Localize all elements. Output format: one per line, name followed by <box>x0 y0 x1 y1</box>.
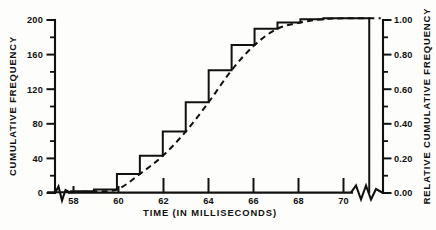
chart-svg: 200 160 120 80 40 0 CUMULATIVE FREQUENCY… <box>0 0 436 230</box>
ogive-curve <box>71 18 381 192</box>
right-axis-group: 1.00 0.80 0.60 0.40 0.20 0.00 RELATIVE C… <box>383 8 432 205</box>
x-tick-label-66: 66 <box>248 196 259 206</box>
left-tick-label-160: 160 <box>27 50 43 60</box>
left-tick-label-120: 120 <box>27 85 43 95</box>
step-histogram <box>48 18 369 193</box>
right-tick-label-060: 0.60 <box>394 85 413 95</box>
x-tick-label-60: 60 <box>113 196 124 206</box>
smoothed-ogive-path <box>71 18 381 192</box>
x-tick-label-58: 58 <box>68 196 79 206</box>
right-tick-label-000: 0.00 <box>394 188 413 198</box>
x-axis-break-right-icon <box>351 186 383 200</box>
x-axis-title: TIME (IN MILLISECONDS) <box>143 207 277 218</box>
right-tick-label-020: 0.20 <box>394 154 413 164</box>
x-tick-label-70: 70 <box>338 196 349 206</box>
cumulative-step-path <box>48 18 369 193</box>
x-axis-group: 58 60 62 64 66 68 70 TIME (IN MILLISECON… <box>55 178 383 218</box>
x-tick-label-62: 62 <box>158 196 169 206</box>
right-tick-label-080: 0.80 <box>394 50 413 60</box>
right-tick-label-040: 0.40 <box>394 119 413 129</box>
left-axis-group: 200 160 120 80 40 0 CUMULATIVE FREQUENCY <box>7 15 55 198</box>
left-tick-label-0: 0 <box>38 188 43 198</box>
left-tick-label-80: 80 <box>32 119 43 129</box>
cumulative-frequency-figure: 200 160 120 80 40 0 CUMULATIVE FREQUENCY… <box>0 0 436 230</box>
right-tick-label-100: 1.00 <box>394 15 413 25</box>
x-tick-label-68: 68 <box>293 196 304 206</box>
right-axis-title: RELATIVE CUMULATIVE FREQUENCY <box>421 8 432 205</box>
left-tick-label-40: 40 <box>32 154 43 164</box>
left-axis-title: CUMULATIVE FREQUENCY <box>7 36 18 176</box>
x-tick-label-64: 64 <box>203 196 214 206</box>
left-tick-label-200: 200 <box>27 15 43 25</box>
